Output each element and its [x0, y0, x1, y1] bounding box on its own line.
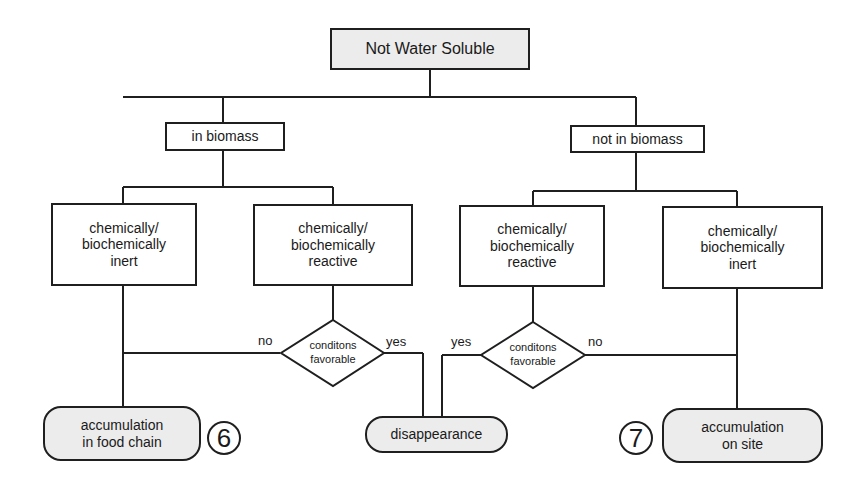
outcome-label: disappearance [391, 426, 483, 443]
outcome-food-chain: accumulation in food chain [43, 406, 201, 461]
node-label: chemically/ biochemically inert [82, 220, 166, 270]
node-biomass-inert: chemically/ biochemically inert [51, 203, 197, 286]
left-no-label: no [258, 333, 272, 348]
branch-not-in-biomass: not in biomass [570, 125, 705, 153]
root-label: Not Water Soluble [365, 40, 494, 59]
node-nonbiomass-inert: chemically/ biochemically inert [662, 206, 823, 289]
node-label: chemically/ biochemically reactive [490, 221, 574, 271]
outcome-on-site: accumulation on site [662, 408, 823, 463]
marker-6: 6 [207, 421, 241, 455]
branch-label: in biomass [192, 128, 259, 145]
node-label: chemically/ biochemically reactive [291, 220, 375, 270]
marker-7: 7 [619, 421, 653, 455]
node-nonbiomass-reactive: chemically/ biochemically reactive [459, 205, 605, 287]
node-biomass-reactive: chemically/ biochemically reactive [253, 204, 413, 286]
branch-in-biomass: in biomass [165, 122, 285, 151]
left-yes-label: yes [386, 334, 406, 349]
outcome-disappearance: disappearance [365, 416, 508, 453]
right-no-label: no [588, 334, 602, 349]
root-node: Not Water Soluble [330, 28, 530, 70]
node-label: chemically/ biochemically inert [700, 223, 784, 273]
decision-right-label: conditons favorable [493, 340, 573, 369]
branch-label: not in biomass [592, 131, 682, 148]
right-yes-label: yes [451, 334, 471, 349]
decision-left-label: conditons favorable [293, 338, 373, 367]
outcome-label: accumulation in food chain [81, 417, 164, 450]
outcome-label: accumulation on site [701, 419, 784, 452]
